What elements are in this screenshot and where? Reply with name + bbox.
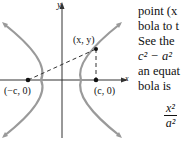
hyperbola-diagram bbox=[0, 0, 130, 142]
right-focus-point bbox=[94, 78, 99, 83]
y-axis-label: y bbox=[57, 0, 61, 10]
fraction-numerator: x² bbox=[164, 102, 177, 116]
text-line: See the bbox=[138, 34, 195, 49]
body-text: point (x bola to t See the c² − a² an eq… bbox=[138, 4, 195, 94]
text-line: bola to t bbox=[138, 19, 195, 34]
text-line: an equat bbox=[138, 64, 195, 79]
point-xy bbox=[94, 47, 98, 51]
left-focus-label: (−c, 0) bbox=[4, 86, 31, 96]
hyperbola-figure: y x (x, y) (−c, 0) (c, 0) bbox=[0, 0, 130, 142]
text-line: bola is bbox=[138, 79, 195, 94]
equation-fraction: x² a² bbox=[164, 102, 177, 130]
fraction-denominator: a² bbox=[164, 116, 177, 130]
text-line: point (x bbox=[138, 4, 195, 19]
x-axis-label: x bbox=[125, 74, 129, 84]
left-focus-point bbox=[26, 78, 31, 83]
text-line: c² − a² bbox=[138, 49, 195, 64]
right-focus-label: (c, 0) bbox=[94, 86, 115, 96]
point-xy-label: (x, y) bbox=[73, 35, 95, 45]
